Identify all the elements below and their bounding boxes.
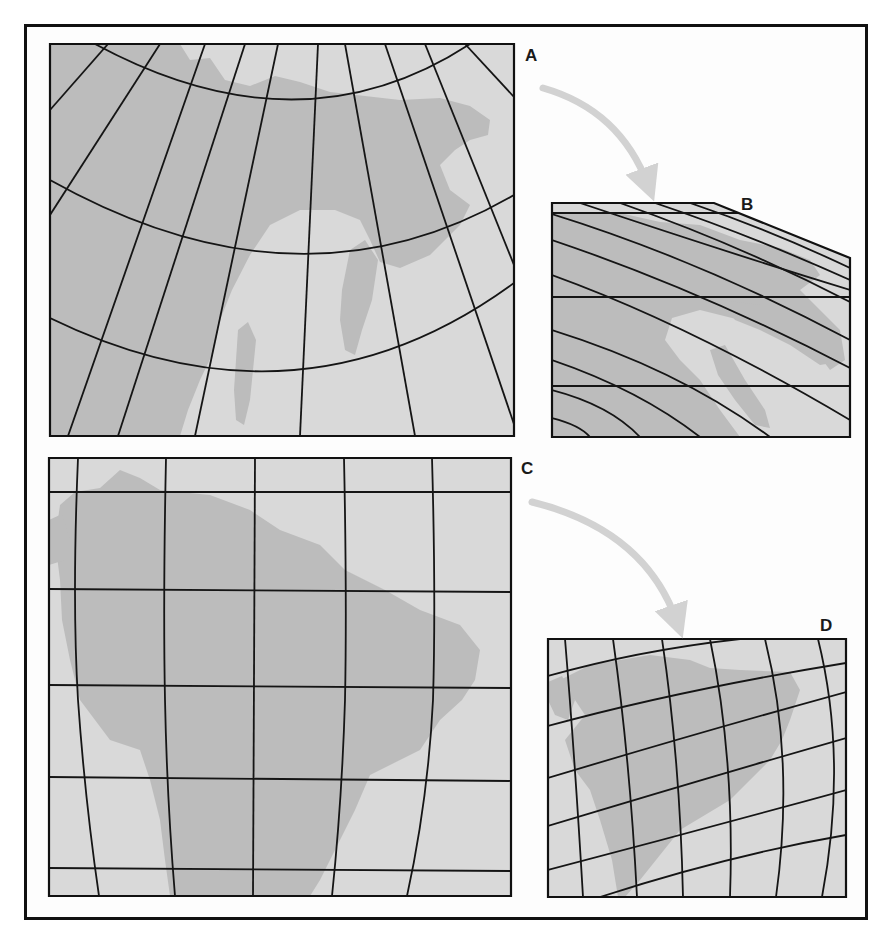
arrow-a-to-b [543,88,648,185]
panel-c [49,458,511,896]
panel-b [552,203,850,437]
map-projection-figure: A B C D [0,0,888,936]
panel-a [50,44,518,436]
panel-label-b: B [741,196,753,213]
panel-label-c: C [521,460,533,477]
projection-panels [0,0,888,936]
panel-label-a: A [525,47,537,64]
arrow-c-to-d [532,502,677,622]
panel-label-d: D [820,617,832,634]
panel-d [548,639,846,897]
